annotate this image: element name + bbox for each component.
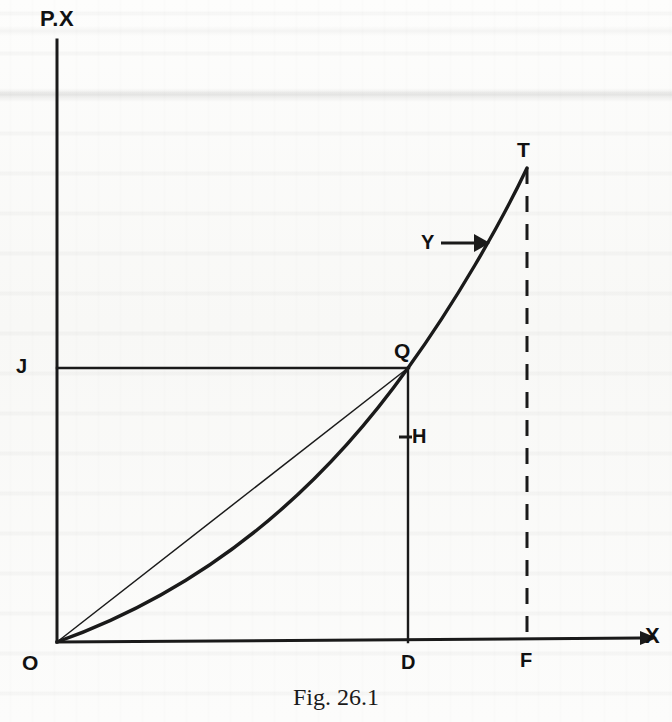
point-label-f: F [520,650,532,670]
point-label-d: D [401,652,415,672]
y-axis-label: P.X [40,8,74,30]
curve-callout-arrowhead [474,234,490,252]
point-label-h: H [412,426,426,446]
curve-label-y: Y [421,232,434,252]
figure-caption: Fig. 26.1 [0,684,672,711]
x-axis [57,638,640,642]
point-label-o: O [22,652,38,673]
point-label-t: T [517,139,530,160]
curve-y [57,168,527,642]
x-axis-label: X [645,625,660,647]
point-label-q: Q [394,340,410,361]
geometry-diagram [0,0,672,722]
point-label-j: J [16,356,27,376]
chord-oq [57,368,408,642]
figure-page: P.X T Y Q J H O D F X Fig. 26.1 [0,0,672,722]
